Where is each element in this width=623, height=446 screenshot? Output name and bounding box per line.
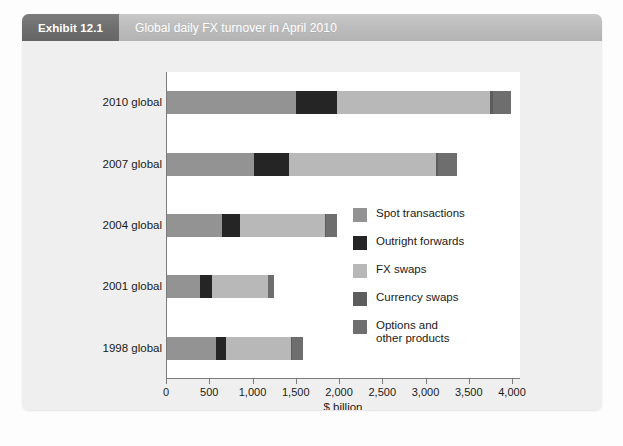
x-axis-tick [469,379,470,384]
bar-segment [222,214,240,237]
y-axis-label: 2010 global [42,96,162,108]
legend-swatch-icon [353,264,367,278]
bar-segment [268,275,273,298]
chart-area: 2010 global2007 global2004 global2001 gl… [22,41,602,410]
legend-label: Spot transactions [376,207,465,220]
x-axis-title: $ billion [166,401,520,410]
bar-segment [167,153,254,176]
legend-label: Options and other products [376,319,450,345]
legend-swatch-icon [353,208,367,222]
bar-segment [289,153,436,176]
y-axis-label: 1998 global [42,342,162,354]
x-axis-tick-label: 1,500 [282,386,310,398]
exhibit-title: Global daily FX turnover in April 2010 [119,14,602,41]
y-axis-label: 2004 global [42,219,162,231]
x-axis-tick-label: 3,000 [412,386,440,398]
x-axis-tick [253,379,254,384]
x-axis-tick [512,379,513,384]
legend-item: Outright forwards [353,235,533,250]
bar-2001 [167,275,274,298]
exhibit-panel: Exhibit 12.1 Global daily FX turnover in… [22,14,602,410]
x-axis-tick-label: 500 [200,386,218,398]
bar-segment [292,337,303,360]
bar-segment [167,275,200,298]
legend-item: Spot transactions [353,207,533,222]
legend-swatch-icon [353,292,367,306]
bar-segment [493,91,511,114]
y-axis-label: 2007 global [42,158,162,170]
bar-segment [212,275,268,298]
bar-segment [438,153,456,176]
exhibit-number-tag: Exhibit 12.1 [22,14,119,41]
bar-segment [167,91,296,114]
chart-legend: Spot transactionsOutright forwardsFX swa… [353,207,533,358]
x-axis-tick [382,379,383,384]
x-axis-tick-label: 0 [163,386,169,398]
bar-segment [326,214,336,237]
x-axis-tick-label: 1,000 [239,386,267,398]
bar-segment [240,214,325,237]
x-axis-tick-label: 4,000 [498,386,526,398]
x-axis-tick [296,379,297,384]
bar-segment [254,153,289,176]
x-axis-tick-label: 2,500 [368,386,396,398]
x-axis-tick [166,379,167,384]
bar-segment [337,91,490,114]
legend-label: Outright forwards [376,235,464,248]
y-axis-label: 2001 global [42,280,162,292]
legend-label: Currency swaps [376,291,458,304]
bar-segment [296,91,337,114]
legend-item: FX swaps [353,263,533,278]
y-axis-labels: 2010 global2007 global2004 global2001 gl… [36,72,162,379]
exhibit-header: Exhibit 12.1 Global daily FX turnover in… [22,14,602,41]
legend-label: FX swaps [376,263,427,276]
bar-segment [200,275,211,298]
x-axis-tick-label: 2,000 [325,386,353,398]
bar-segment [226,337,291,360]
legend-item: Options and other products [353,319,533,345]
x-axis-tick [339,379,340,384]
page-background: Exhibit 12.1 Global daily FX turnover in… [0,0,623,446]
bar-2004 [167,214,337,237]
bar-segment [216,337,226,360]
x-axis-tick [209,379,210,384]
legend-swatch-icon [353,236,367,250]
legend-item: Currency swaps [353,291,533,306]
bar-1998 [167,337,303,360]
legend-swatch-icon [353,320,367,334]
bar-segment [167,337,216,360]
bar-2010 [167,91,511,114]
bar-2007 [167,153,457,176]
x-axis-tick-label: 3,500 [455,386,483,398]
bar-segment [167,214,222,237]
x-axis-tick [426,379,427,384]
